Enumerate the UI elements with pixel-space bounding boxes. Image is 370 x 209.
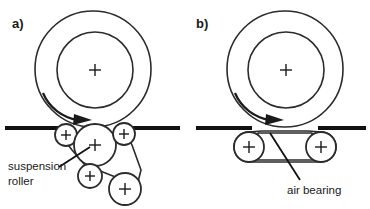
panel-a-label: a)	[12, 16, 24, 31]
suspension-roller-label-line1: suspension	[8, 160, 66, 172]
panel-b-drum-outer	[227, 11, 343, 127]
diagram-canvas: a)	[0, 0, 370, 209]
roller-suspension-diagram: a)	[0, 0, 370, 209]
panel-b-drum-center-marker	[280, 64, 292, 76]
panel-a-drum-center-marker	[89, 64, 101, 76]
panel-b: b)	[196, 11, 366, 196]
air-bearing-label: air bearing	[287, 184, 341, 196]
panel-a: a)	[5, 11, 180, 205]
panel-b-label: b)	[196, 16, 208, 31]
suspension-roller-label-line2: roller	[8, 175, 34, 187]
